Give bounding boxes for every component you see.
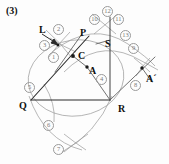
segment-QP: [31, 36, 89, 100]
arc-R-bottom: [62, 96, 112, 152]
geometry-figure: (3): [0, 0, 169, 164]
circumcircle-arc: [23, 34, 129, 123]
segment-R-to-Aprime: [110, 57, 155, 100]
arc-C-to-right: [64, 51, 158, 72]
arc-top-left-cross: [92, 14, 116, 34]
segment-AR: [87, 67, 110, 100]
L-pointer-arrow: [42, 34, 58, 45]
arc-near-Q: [44, 84, 54, 122]
point-A-dot: [85, 65, 88, 68]
arc-top-right-cross: [94, 14, 118, 34]
point-L-dot: [57, 44, 60, 47]
figure-drawing: [0, 0, 169, 164]
point-C-dot: [71, 54, 75, 58]
main-segments: [31, 17, 110, 100]
ray-Aprime: [142, 68, 152, 82]
segment-CA: [73, 56, 87, 67]
point-Aprime-dot: [140, 66, 143, 69]
arc-P-to-Aprime: [52, 34, 155, 66]
segment-S-left: [96, 40, 110, 44]
secondary-segments: [55, 34, 155, 100]
marked-points: [57, 44, 144, 70]
line-through-C-upper: [55, 34, 82, 72]
